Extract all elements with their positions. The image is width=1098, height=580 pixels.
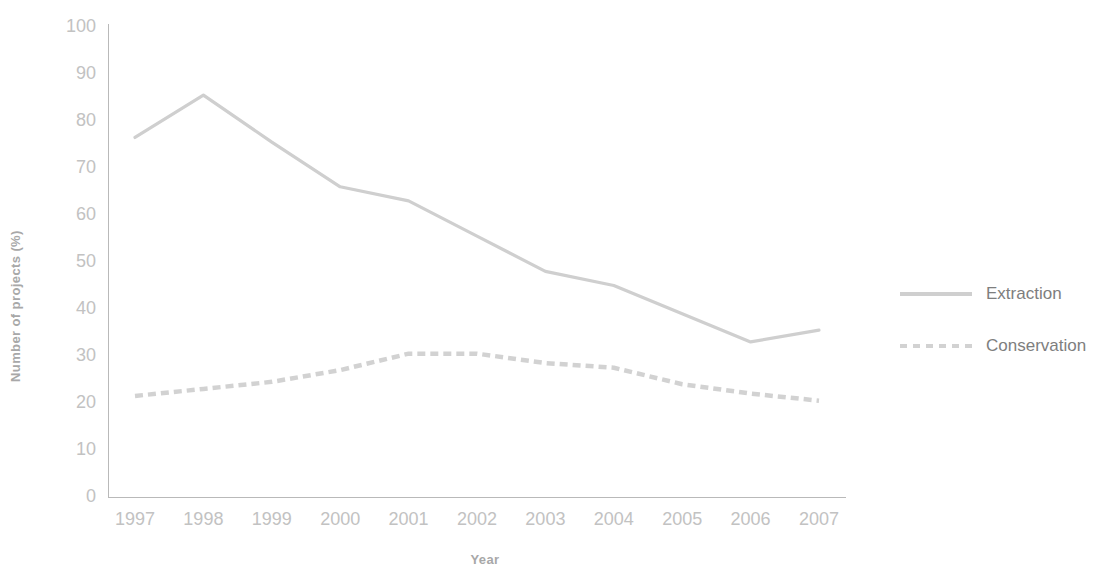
series-line-extraction (135, 95, 819, 342)
legend-label-extraction: Extraction (986, 284, 1062, 304)
chart-legend: Extraction Conservation (900, 268, 1098, 372)
series-line-conservation (135, 354, 819, 401)
legend-swatch-solid-line-icon (900, 292, 972, 296)
legend-swatch-dashed-line-icon (900, 344, 972, 348)
legend-item-extraction: Extraction (900, 268, 1098, 320)
legend-item-conservation: Conservation (900, 320, 1098, 372)
line-chart: Number of projects (%) Year 010203040506… (0, 0, 1098, 580)
legend-label-conservation: Conservation (986, 336, 1086, 356)
